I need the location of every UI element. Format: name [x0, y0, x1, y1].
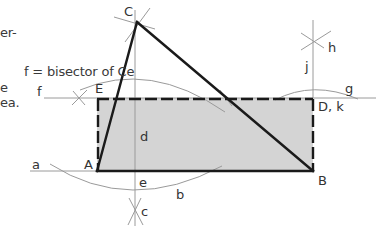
label-E: E: [95, 82, 103, 95]
label-g: g: [345, 82, 353, 95]
cross-mark-h2: [301, 31, 331, 50]
shaded-rectangle: [97, 98, 313, 171]
caption-fragment-3: e: [0, 81, 8, 94]
label-b: b: [176, 188, 184, 201]
label-c: c: [141, 205, 148, 218]
diagram-canvas: [0, 0, 376, 233]
geometry-diagram: er- f = bisector of Ce e ea. C E f g h j…: [0, 0, 376, 233]
label-e: e: [139, 176, 147, 189]
label-f: f: [37, 85, 42, 98]
label-A: A: [84, 158, 93, 171]
label-D-k: D, k: [318, 100, 344, 113]
caption-fragment-4: ea.: [0, 96, 20, 109]
label-j: j: [305, 60, 309, 73]
label-a: a: [32, 158, 40, 171]
caption-fragment-1: er-: [0, 26, 17, 39]
label-h: h: [328, 41, 336, 54]
label-d: d: [140, 130, 148, 143]
label-C: C: [124, 5, 133, 18]
label-B: B: [318, 174, 327, 187]
caption-fragment-2: f = bisector of Ce: [24, 65, 134, 78]
